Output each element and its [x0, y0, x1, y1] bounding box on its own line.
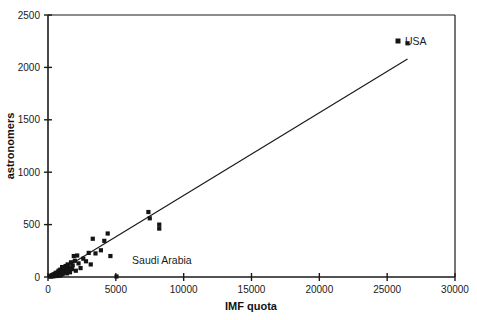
x-tick-label-0: 0 [45, 284, 51, 295]
y-tick-label-0: 0 [34, 272, 40, 283]
data-point [102, 239, 106, 243]
x-axis-title: IMF quota [225, 300, 278, 312]
data-point [108, 254, 112, 258]
y-tick-label-2500: 2500 [18, 10, 41, 21]
legend-label-usa: USA [405, 35, 427, 47]
data-point [89, 262, 93, 266]
data-point [91, 237, 95, 241]
annotation-saudi-arabia: Saudi Arabia [132, 254, 192, 266]
x-tick-label-30000: 30000 [441, 284, 469, 295]
y-tick-label-1500: 1500 [18, 114, 41, 125]
data-point [74, 269, 78, 273]
fit-line [51, 59, 408, 276]
x-tick-label-15000: 15000 [238, 284, 266, 295]
x-tick-label-5000: 5000 [105, 284, 128, 295]
data-point [71, 263, 75, 267]
data-point [84, 259, 88, 263]
chart-svg: 05001000150020002500 0500010000150002000… [0, 0, 477, 320]
data-point [87, 251, 91, 255]
data-point [114, 274, 118, 278]
y-tick-label-500: 500 [23, 219, 40, 230]
data-point [75, 253, 79, 257]
data-point [93, 251, 97, 255]
x-tick-label-25000: 25000 [373, 284, 401, 295]
legend-marker-usa [396, 39, 401, 44]
y-axis-title: astronomers [4, 113, 16, 180]
data-point [146, 210, 150, 214]
plot-frame [48, 15, 455, 277]
y-tick-label-1000: 1000 [18, 167, 41, 178]
x-tick-label-20000: 20000 [305, 284, 333, 295]
data-point [73, 259, 77, 263]
chart-annotations: Saudi Arabia [132, 254, 192, 266]
data-point [157, 223, 161, 227]
data-point [70, 267, 74, 271]
data-points [48, 41, 410, 278]
data-point [106, 231, 110, 235]
legend: USA [396, 35, 427, 47]
data-point [76, 261, 80, 265]
scatter-chart: 05001000150020002500 0500010000150002000… [0, 0, 477, 320]
data-point [78, 266, 82, 270]
y-tick-label-2000: 2000 [18, 62, 41, 73]
data-point [148, 216, 152, 220]
regression-line [51, 59, 408, 276]
data-point [99, 248, 103, 252]
y-axis-ticks: 05001000150020002500 [18, 10, 52, 283]
data-point [157, 226, 161, 230]
x-tick-label-10000: 10000 [170, 284, 198, 295]
